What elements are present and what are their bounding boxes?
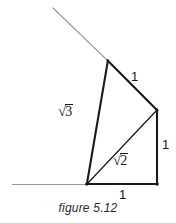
figure-caption: figure 5.12 (0, 201, 176, 215)
label-side-bottom: 1 (119, 188, 126, 201)
geometry-diagram (0, 0, 176, 223)
label-sqrt2: √2 (113, 152, 128, 168)
radicand: 3 (65, 104, 73, 119)
radical-sqrt2: √2 (113, 153, 128, 168)
figure-container: √3 √2 1 1 1 figure 5.12 (0, 0, 176, 223)
radical-sqrt3: √3 (58, 104, 73, 119)
label-side-top: 1 (131, 70, 138, 83)
label-side-right: 1 (162, 138, 169, 151)
radicand: 2 (120, 153, 128, 168)
apex-ray-guide (53, 8, 108, 61)
label-sqrt3: √3 (58, 103, 73, 119)
